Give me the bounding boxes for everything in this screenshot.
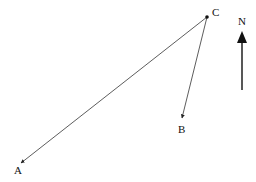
point-c-label: C bbox=[212, 7, 219, 18]
north-arrow-icon bbox=[237, 31, 247, 90]
point-b-label: B bbox=[178, 124, 185, 135]
north-label: N bbox=[238, 16, 246, 27]
diagram-canvas bbox=[0, 0, 256, 182]
vector-c-to-b bbox=[182, 17, 207, 118]
point-c-dot bbox=[205, 15, 209, 19]
vector-c-to-a bbox=[21, 17, 207, 163]
point-a-label: A bbox=[14, 165, 22, 176]
